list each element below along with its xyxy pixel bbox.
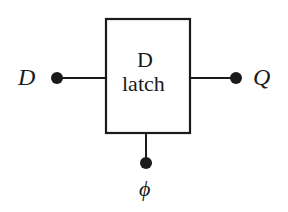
q-output-label: Q	[253, 64, 270, 91]
clock-phi-label: ϕ	[139, 176, 150, 202]
d-input-label: D	[18, 64, 35, 91]
block-title-d: D	[137, 47, 153, 73]
clock-terminal-dot	[140, 157, 152, 169]
d-terminal-dot	[51, 72, 63, 84]
block-title-latch: latch	[122, 71, 165, 97]
q-terminal-dot	[230, 72, 242, 84]
d-latch-diagram: D latch D Q ϕ	[0, 0, 288, 212]
